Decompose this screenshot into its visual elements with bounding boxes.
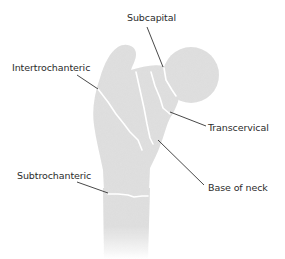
leader-intertrochanteric: [77, 75, 98, 89]
femur-bone: [93, 45, 219, 259]
leader-base-of-neck: [158, 140, 204, 185]
label-subcapital: Subcapital: [127, 12, 176, 23]
label-base-of-neck: Base of neck: [208, 182, 268, 193]
leader-transcervical: [170, 112, 206, 126]
label-intertrochanteric: Intertrochanteric: [12, 62, 90, 73]
leader-subcapital: [147, 27, 163, 67]
label-transcervical: Transcervical: [208, 122, 269, 133]
femoral-shaft: [103, 188, 150, 259]
label-subtrochanteric: Subtrochanteric: [17, 170, 91, 181]
leader-subtrochanteric: [77, 182, 108, 193]
